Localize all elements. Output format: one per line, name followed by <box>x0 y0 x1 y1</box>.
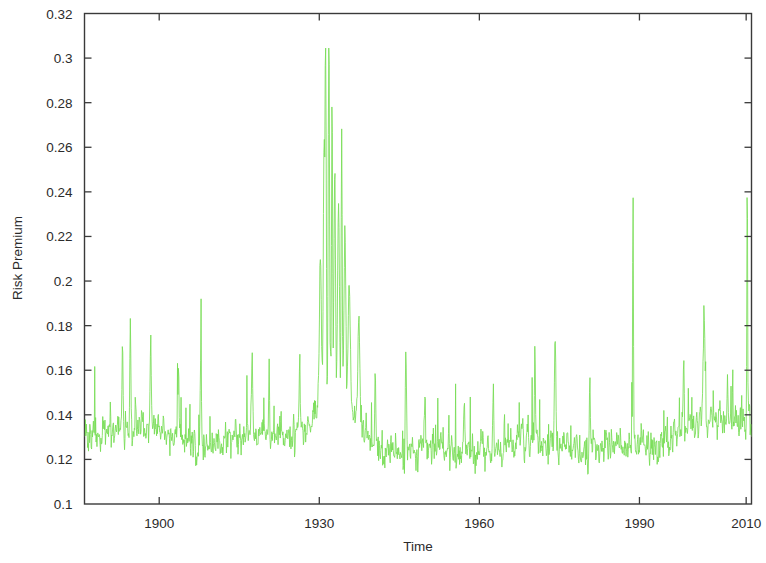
x-tick-label: 1930 <box>304 516 334 531</box>
y-tick-label: 0.1 <box>54 497 73 512</box>
risk-premium-line-chart: 0.10.120.140.160.180.20.220.240.260.280.… <box>0 0 766 563</box>
x-tick-label: 1960 <box>464 516 494 531</box>
y-tick-label: 0.28 <box>46 96 72 111</box>
y-tick-label: 0.26 <box>46 140 72 155</box>
y-tick-label: 0.12 <box>46 452 72 467</box>
x-tick-label: 1990 <box>624 516 654 531</box>
x-tick-label: 2010 <box>731 516 761 531</box>
y-tick-label: 0.24 <box>46 185 73 200</box>
x-tick-label: 1900 <box>144 516 174 531</box>
y-axis-title: Risk Premium <box>10 216 25 300</box>
chart-background <box>0 0 766 563</box>
x-axis-title: Time <box>403 539 433 554</box>
chart-figure: 0.10.120.140.160.180.20.220.240.260.280.… <box>0 0 766 563</box>
y-tick-label: 0.14 <box>46 408 73 423</box>
y-tick-label: 0.3 <box>54 51 73 66</box>
y-tick-label: 0.22 <box>46 229 72 244</box>
y-tick-label: 0.32 <box>46 7 72 22</box>
y-tick-label: 0.16 <box>46 363 72 378</box>
y-tick-label: 0.2 <box>54 274 73 289</box>
y-tick-label: 0.18 <box>46 319 72 334</box>
